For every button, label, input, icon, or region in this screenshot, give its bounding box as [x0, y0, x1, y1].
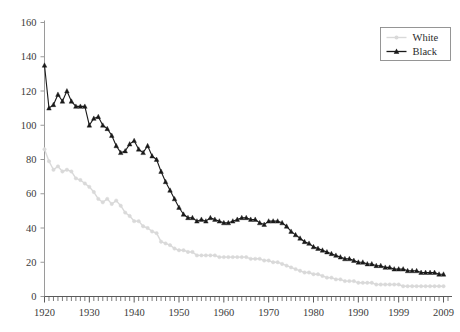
data-point-marker	[92, 190, 95, 193]
y-tick-label: 100	[21, 120, 37, 131]
data-point-marker	[141, 225, 144, 228]
data-point-marker	[65, 168, 68, 171]
data-point-marker	[240, 255, 243, 258]
x-tick-label: 1980	[303, 307, 324, 318]
data-point-marker	[182, 249, 185, 252]
data-point-marker	[285, 264, 288, 267]
data-point-marker	[271, 261, 274, 264]
data-point-marker	[136, 147, 141, 151]
data-point-marker	[254, 257, 257, 260]
data-point-marker	[289, 266, 292, 269]
data-point-marker	[334, 278, 337, 281]
data-point-marker	[393, 283, 396, 286]
data-point-marker	[410, 285, 413, 288]
x-axis: 1920193019401950196019701980199019992009	[34, 297, 454, 318]
data-point-marker	[150, 154, 155, 158]
x-tick-label: 1970	[258, 307, 279, 318]
chart-figure: 020406080100120140160 192019301940195019…	[0, 0, 460, 332]
data-point-marker	[159, 169, 164, 173]
data-point-marker	[267, 259, 270, 262]
data-point-marker	[172, 196, 177, 200]
data-point-marker	[163, 179, 168, 183]
data-point-marker	[159, 240, 162, 243]
chart-legend: WhiteBlack	[381, 28, 451, 61]
data-point-marker	[132, 138, 137, 142]
data-point-marker	[74, 177, 77, 180]
data-point-marker	[56, 92, 61, 96]
data-point-marker	[52, 168, 55, 171]
data-point-marker	[155, 231, 158, 234]
data-point-marker	[96, 114, 101, 118]
data-point-marker	[298, 269, 301, 272]
data-point-marker	[51, 102, 56, 106]
data-point-marker	[303, 271, 306, 274]
data-point-marker	[424, 285, 427, 288]
x-tick-label: 1999	[388, 307, 409, 318]
data-point-marker	[132, 219, 135, 222]
data-point-marker	[437, 285, 440, 288]
y-tick-label: 80	[26, 154, 37, 165]
x-tick-label: 1950	[169, 307, 190, 318]
data-point-marker	[186, 250, 189, 253]
data-point-marker	[191, 250, 194, 253]
data-point-marker	[47, 160, 50, 163]
data-point-marker	[69, 99, 74, 103]
data-point-marker	[384, 283, 387, 286]
data-point-marker	[276, 261, 279, 264]
data-point-marker	[209, 254, 212, 257]
data-point-marker	[101, 201, 104, 204]
y-tick-label: 20	[26, 257, 37, 268]
data-point-marker	[433, 285, 436, 288]
data-point-marker	[280, 262, 283, 265]
data-point-marker	[168, 188, 173, 192]
data-point-marker	[106, 197, 109, 200]
data-point-marker	[100, 123, 105, 127]
data-point-marker	[321, 274, 324, 277]
data-point-marker	[325, 276, 328, 279]
data-point-marker	[227, 255, 230, 258]
data-point-marker	[56, 165, 59, 168]
data-point-marker	[204, 254, 207, 257]
data-point-marker	[119, 204, 122, 207]
y-tick-label: 40	[26, 223, 37, 234]
data-point-marker	[43, 148, 46, 151]
data-point-marker	[397, 283, 400, 286]
x-tick-label: 1940	[124, 307, 145, 318]
data-point-marker	[388, 283, 391, 286]
series-black	[42, 63, 446, 276]
chart-canvas: 020406080100120140160 192019301940195019…	[0, 0, 460, 332]
data-point-marker	[231, 255, 234, 258]
data-point-marker	[339, 278, 342, 281]
data-point-marker	[236, 255, 239, 258]
data-point-marker	[150, 230, 153, 233]
legend-label: Black	[413, 46, 438, 57]
data-point-marker	[442, 285, 445, 288]
data-point-marker	[70, 170, 73, 173]
data-point-marker	[370, 281, 373, 284]
data-point-marker	[348, 279, 351, 282]
data-point-marker	[262, 259, 265, 262]
data-point-marker	[249, 257, 252, 260]
data-point-marker	[401, 285, 404, 288]
y-tick-label: 160	[21, 17, 37, 28]
x-tick-label: 1960	[213, 307, 234, 318]
data-point-marker	[357, 281, 360, 284]
legend-swatch-marker	[395, 36, 399, 40]
x-tick-label: 1930	[79, 307, 100, 318]
data-point-marker	[352, 279, 355, 282]
data-point-marker	[379, 283, 382, 286]
data-point-marker	[208, 215, 213, 219]
y-axis: 020406080100120140160	[21, 17, 45, 302]
data-point-marker	[258, 257, 261, 260]
data-point-marker	[115, 199, 118, 202]
data-point-marker	[137, 219, 140, 222]
data-point-marker	[177, 249, 180, 252]
y-tick-label: 140	[21, 51, 37, 62]
x-tick-label: 1990	[348, 307, 369, 318]
data-point-marker	[114, 143, 119, 147]
data-point-marker	[294, 267, 297, 270]
data-point-marker	[419, 285, 422, 288]
data-point-marker	[366, 281, 369, 284]
data-point-marker	[428, 285, 431, 288]
data-point-marker	[375, 283, 378, 286]
